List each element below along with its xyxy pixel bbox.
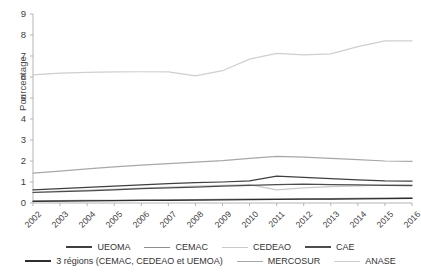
legend-item[interactable]: 3 régions (CEMAC, CEDEAO et UEMOA) [25, 256, 223, 266]
legend-item[interactable]: CEDEAO [222, 242, 291, 252]
legend-item[interactable]: CAE [305, 242, 355, 252]
legend-label: CEDEAO [253, 242, 291, 252]
series-line [33, 41, 412, 76]
legend-row-primary: UEOMACEMACCEDEAOCAE [0, 240, 421, 254]
legend-item[interactable]: CEMAC [144, 242, 208, 252]
legend-swatch-line-icon [222, 247, 248, 248]
legend-row-secondary: 3 régions (CEMAC, CEDEAO et UEMOA)MERCOS… [0, 254, 421, 268]
legend-swatch-line-icon [25, 260, 51, 262]
legend-label: CEMAC [175, 242, 208, 252]
legend-label: CAE [336, 242, 355, 252]
legend-item[interactable]: UEOMA [66, 242, 130, 252]
legend-swatch-line-icon [305, 246, 331, 248]
line-chart: Pourcentage 0123456789 20022003200420052… [0, 0, 421, 275]
legend-item[interactable]: ANASE [334, 256, 396, 266]
legend-item[interactable]: MERCOSUR [237, 256, 321, 266]
legend-swatch-line-icon [237, 261, 263, 262]
legend-swatch-line-icon [144, 247, 170, 248]
legend-label: ANASE [365, 256, 396, 266]
legend-swatch-line-icon [66, 246, 92, 248]
plot-area [0, 0, 421, 275]
legend-label: MERCOSUR [268, 256, 321, 266]
legend-label: UEOMA [97, 242, 130, 252]
legend-swatch-line-icon [334, 261, 360, 262]
series-line [33, 176, 412, 190]
chart-legend: UEOMACEMACCEDEAOCAE 3 régions (CEMAC, CE… [0, 240, 421, 268]
legend-label: 3 régions (CEMAC, CEDEAO et UEMOA) [56, 256, 223, 266]
series-line [33, 156, 412, 173]
